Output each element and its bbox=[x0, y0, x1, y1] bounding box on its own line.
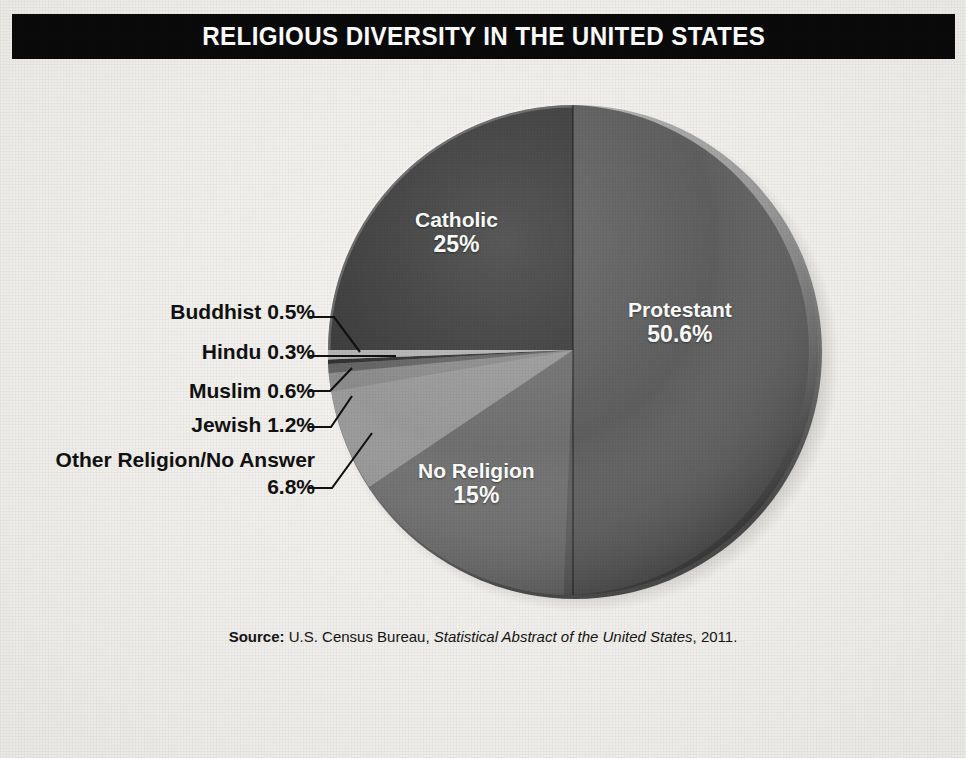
callout-label-jewish: Jewish 1.2% bbox=[191, 413, 315, 437]
source-agency: U.S. Census Bureau, bbox=[289, 628, 430, 645]
callout-label-buddhist: Buddhist 0.5% bbox=[170, 300, 315, 324]
chart-area: Protestant 50.6% Catholic 25% No Religio… bbox=[0, 0, 966, 758]
slice-label-catholic-percent: 25% bbox=[415, 232, 498, 258]
slice-label-catholic-name: Catholic bbox=[415, 208, 498, 232]
callout-label-muslim: Muslim 0.6% bbox=[189, 379, 315, 403]
slice-label-no-religion-name: No Religion bbox=[418, 459, 535, 483]
slice-label-no-religion-percent: 15% bbox=[418, 483, 535, 509]
slice-label-protestant: Protestant 50.6% bbox=[628, 298, 732, 347]
slice-label-protestant-percent: 50.6% bbox=[628, 322, 732, 348]
source-publication: Statistical Abstract of the United State… bbox=[434, 628, 693, 645]
slice-label-catholic: Catholic 25% bbox=[415, 208, 498, 257]
callout-label-other-religion-line2: 6.8% bbox=[56, 474, 315, 501]
callout-label-hindu: Hindu 0.3% bbox=[202, 340, 315, 364]
source-label: Source: bbox=[229, 628, 285, 645]
slice-label-no-religion: No Religion 15% bbox=[418, 459, 535, 508]
source-year: , 2011. bbox=[693, 628, 738, 645]
callout-label-other-religion-line1: Other Religion/No Answer bbox=[56, 448, 315, 471]
callout-label-other-religion: Other Religion/No Answer 6.8% bbox=[56, 447, 315, 501]
source-note: Source: U.S. Census Bureau, Statistical … bbox=[0, 628, 966, 645]
slice-label-protestant-name: Protestant bbox=[628, 298, 732, 322]
